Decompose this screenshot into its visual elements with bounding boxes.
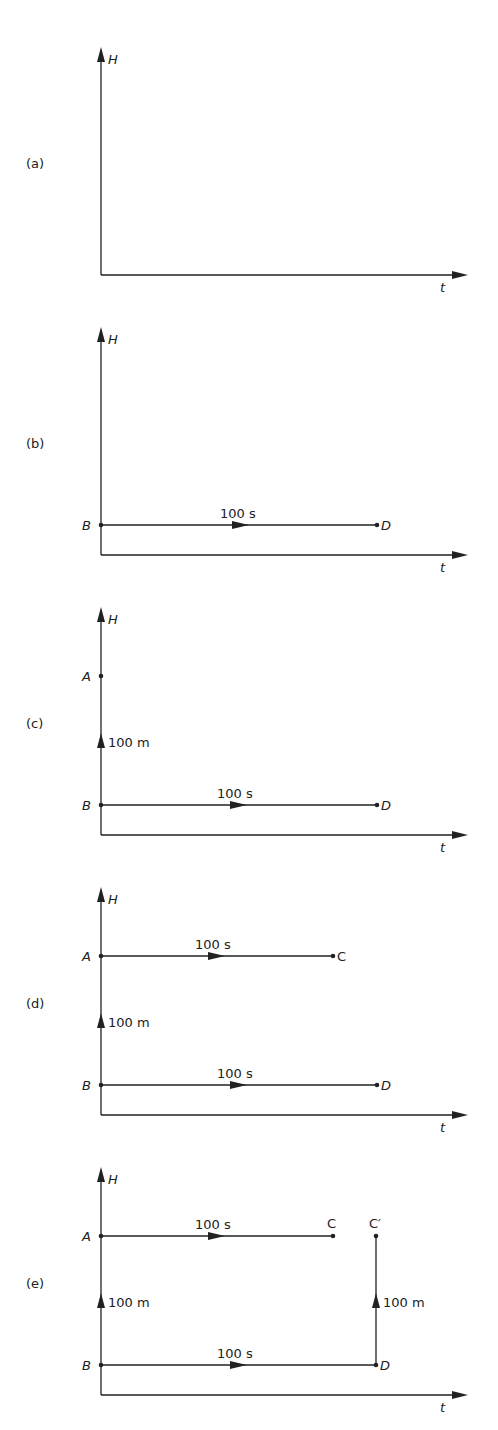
h-axis-label: H <box>108 52 118 67</box>
point-b <box>99 523 104 528</box>
duration-label: 100 s <box>195 1217 231 1232</box>
point-a <box>99 674 104 679</box>
point-b-label: B <box>82 1358 91 1373</box>
panel-d: (d) H t 100 s A C 100 m 100 s B D <box>26 887 468 1135</box>
point-d <box>374 1363 379 1368</box>
t-axis-label: t <box>440 280 446 295</box>
direction-arrow-icon <box>97 1013 105 1028</box>
direction-arrow-icon <box>230 801 247 809</box>
direction-arrow-icon <box>97 733 105 748</box>
point-b-label: B <box>82 798 91 813</box>
h-axis-arrow-icon <box>97 887 105 902</box>
point-d-label: D <box>381 1078 391 1093</box>
point-a <box>99 1234 104 1239</box>
h-axis-arrow-icon <box>97 327 105 342</box>
t-axis-arrow-icon <box>452 831 468 839</box>
point-d <box>375 803 380 808</box>
direction-arrow-icon <box>208 1232 225 1240</box>
duration-label: 100 s <box>217 1346 253 1361</box>
point-c <box>331 1234 336 1239</box>
point-c-label: C <box>337 949 346 964</box>
point-a <box>99 954 104 959</box>
point-d-label: D <box>381 518 391 533</box>
spacetime-diagram-figure: (a) H t (b) H t 100 s B D (c) H t 1 <box>0 0 498 1430</box>
height-label: 100 m <box>108 1015 150 1030</box>
panel-label-b: (b) <box>26 436 44 451</box>
panel-label-c: (c) <box>26 716 43 731</box>
t-axis-arrow-icon <box>452 1391 468 1399</box>
point-c-label: C <box>327 1216 336 1231</box>
panel-e: (e) H t 100 s A C 100 m C′ 100 m 100 s B… <box>26 1167 468 1415</box>
direction-arrow-icon <box>230 1081 247 1089</box>
point-d-label: D <box>380 1358 390 1373</box>
point-b-label: B <box>82 518 91 533</box>
point-b-label: B <box>82 1078 91 1093</box>
t-axis-label: t <box>440 560 446 575</box>
t-axis-arrow-icon <box>452 551 468 559</box>
panel-label-d: (d) <box>26 996 44 1011</box>
point-b <box>99 1363 104 1368</box>
t-axis-label: t <box>440 1400 446 1415</box>
t-axis-arrow-icon <box>452 271 468 279</box>
direction-arrow-icon <box>372 1293 380 1308</box>
point-c <box>331 954 336 959</box>
point-b <box>99 1083 104 1088</box>
point-d-label: D <box>381 798 391 813</box>
h-axis-label: H <box>108 612 118 627</box>
h-axis-label: H <box>108 332 118 347</box>
duration-label: 100 s <box>195 937 231 952</box>
point-c-prime-label: C′ <box>369 1216 381 1231</box>
point-a-label: A <box>81 669 91 684</box>
panel-b: (b) H t 100 s B D <box>26 327 468 575</box>
panel-label-e: (e) <box>26 1276 44 1291</box>
panel-label-a: (a) <box>26 156 44 171</box>
t-axis-arrow-icon <box>452 1111 468 1119</box>
duration-label: 100 s <box>217 1066 253 1081</box>
direction-arrow-icon <box>230 1361 247 1369</box>
point-a-label: A <box>81 949 91 964</box>
height-label: 100 m <box>383 1295 425 1310</box>
panel-c: (c) H t 100 m A 100 s B D <box>26 607 468 855</box>
t-axis-label: t <box>440 840 446 855</box>
duration-label: 100 s <box>217 786 253 801</box>
point-d <box>375 1083 380 1088</box>
h-axis-arrow-icon <box>97 47 105 62</box>
h-axis-label: H <box>108 1172 118 1187</box>
point-d <box>375 523 380 528</box>
duration-label: 100 s <box>220 506 256 521</box>
direction-arrow-icon <box>232 521 249 529</box>
panel-a: (a) H t <box>26 47 468 295</box>
direction-arrow-icon <box>208 952 225 960</box>
point-c-prime <box>374 1234 379 1239</box>
height-label: 100 m <box>108 1295 150 1310</box>
point-b <box>99 803 104 808</box>
t-axis-label: t <box>440 1120 446 1135</box>
point-a-label: A <box>81 1229 91 1244</box>
h-axis-arrow-icon <box>97 607 105 622</box>
height-label: 100 m <box>108 735 150 750</box>
h-axis-arrow-icon <box>97 1167 105 1182</box>
direction-arrow-icon <box>97 1293 105 1308</box>
h-axis-label: H <box>108 892 118 907</box>
